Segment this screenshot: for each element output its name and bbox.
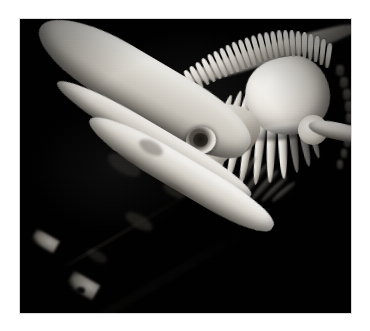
neural-spine <box>289 30 296 56</box>
whale-skeleton-photo <box>20 19 351 313</box>
right-mandible-tip <box>66 271 100 301</box>
eye-socket-ring <box>183 124 219 157</box>
neural-spine <box>244 37 258 66</box>
shadowed-rib <box>260 175 289 204</box>
distal-vertebra <box>344 137 351 147</box>
shoulder-joint <box>298 115 328 145</box>
shadowed-ribs-group <box>20 19 351 313</box>
bone-texture-patch <box>123 208 155 234</box>
bone-texture-patch <box>136 136 165 160</box>
film-grain-overlay <box>20 19 351 313</box>
occipital-crest <box>202 100 265 158</box>
neural-spine <box>183 69 198 91</box>
neural-spine <box>324 43 332 68</box>
flipper-humerus <box>307 117 351 147</box>
shadowed-rib <box>270 180 296 203</box>
rib <box>212 90 245 179</box>
scapula <box>240 50 336 141</box>
distal-vertebra <box>336 65 344 76</box>
neural-spine <box>200 57 216 82</box>
rib <box>301 99 322 159</box>
rib <box>223 87 253 183</box>
distal-vertebra <box>346 125 351 135</box>
distal-vertebra <box>345 101 351 112</box>
left-mandible <box>51 71 258 208</box>
upper-jaw-gap-shadow <box>61 171 225 270</box>
eye-socket-hollow <box>193 133 208 147</box>
neural-spine <box>296 31 302 57</box>
neural-spine <box>283 30 291 56</box>
rib <box>293 97 313 167</box>
distal-vertebra <box>341 149 347 158</box>
upper-jaw-rostrum <box>26 19 263 174</box>
shadowed-rib <box>249 168 280 202</box>
neural-spine <box>308 34 314 60</box>
bone-texture-patch <box>104 149 143 181</box>
neural-spine <box>263 32 274 59</box>
neural-spine <box>231 41 246 70</box>
cranium <box>135 91 241 180</box>
bone-texture-patch <box>161 180 187 202</box>
neural-spine <box>257 33 269 61</box>
neural-spine <box>319 39 327 65</box>
neural-spine <box>212 50 228 77</box>
scapula-edge-shadow <box>247 118 326 145</box>
neural-spine <box>219 47 235 75</box>
mandible-gap-shadow <box>72 224 254 313</box>
background-haze <box>20 19 351 313</box>
distal-vertebra <box>340 77 348 88</box>
neural-spine <box>250 35 263 63</box>
left-mandible-tip <box>30 228 60 253</box>
neural-spine <box>188 65 204 88</box>
neural-spine <box>206 53 222 79</box>
shadowed-rib <box>231 155 258 192</box>
rib-cage-group <box>20 19 351 313</box>
rib <box>265 91 277 183</box>
right-mandible <box>81 105 281 242</box>
neural-spine <box>276 30 285 56</box>
rib <box>251 89 270 185</box>
rib <box>202 94 236 175</box>
rib <box>277 93 289 179</box>
neural-spine <box>313 36 320 62</box>
vignette-overlay <box>20 19 351 313</box>
shadowed-rib <box>240 162 271 199</box>
neural-spine <box>225 44 241 73</box>
neural-spine <box>194 61 210 85</box>
neural-spines-group <box>20 19 351 313</box>
rib <box>285 95 301 173</box>
bone-texture-patch <box>85 246 109 266</box>
neural-spine <box>302 32 307 58</box>
vertebral-column <box>181 19 351 89</box>
distal-vertebrae-group <box>20 19 351 313</box>
neural-spine <box>270 31 280 58</box>
photo-frame <box>0 0 370 331</box>
distal-vertebra <box>346 113 351 123</box>
neural-spine <box>237 39 252 68</box>
distal-vertebra <box>343 89 351 100</box>
rib <box>237 87 263 185</box>
distal-vertebra <box>337 160 343 169</box>
mandible-tip-notch <box>76 287 85 294</box>
